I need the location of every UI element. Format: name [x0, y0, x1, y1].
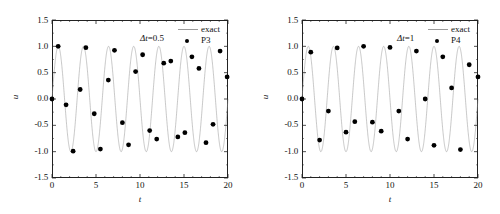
x-tick-label: 0 [50, 180, 55, 190]
x-tick-label: 15 [180, 180, 189, 190]
x-tick-label: 15 [430, 180, 439, 190]
x-tick-label: 5 [344, 180, 349, 190]
figure: 1.5 1.0 0.5 0.0 -0.5 -1.0 -1.5 0 5 10 15… [0, 0, 500, 214]
legend-label: exact [451, 24, 470, 35]
legend-item-series: P3 [178, 35, 220, 46]
legend-label: exact [201, 24, 220, 35]
legend-item-series: P4 [428, 35, 470, 46]
y-tick-label: 1.0 [20, 42, 48, 51]
annotation-delta-symbol: Δt [397, 33, 405, 43]
legend-item-exact: exact [178, 24, 220, 35]
y-tick-label: -1.5 [20, 173, 48, 182]
y-tick-label: 0.0 [20, 94, 48, 103]
y-tick-label: 1.5 [270, 16, 298, 25]
legend-line-swatch-icon [178, 24, 198, 35]
y-axis-label-left: u [10, 90, 20, 104]
x-tick-label: 20 [224, 180, 233, 190]
y-axis-ticks-right: 1.5 1.0 0.5 0.0 -0.5 -1.0 -1.5 [268, 20, 298, 178]
y-tick-label: 0.0 [270, 94, 298, 103]
chart-panel-left: 1.5 1.0 0.5 0.0 -0.5 -1.0 -1.5 0 5 10 15… [0, 0, 250, 214]
legend-item-exact: exact [428, 24, 470, 35]
y-axis-label-right: u [260, 90, 270, 104]
legend-label: P4 [451, 35, 461, 46]
annotation-timestep-right: Δt=1 [397, 33, 414, 43]
legend-line-swatch-icon [428, 24, 448, 35]
x-tick-label: 0 [300, 180, 305, 190]
x-axis-label-left: t [52, 194, 228, 204]
legend-marker-swatch-icon [428, 35, 448, 46]
y-axis-ticks-left: 1.5 1.0 0.5 0.0 -0.5 -1.0 -1.5 [18, 20, 48, 178]
legend-label: P3 [201, 35, 211, 46]
legend-left: exact P3 [178, 24, 220, 46]
x-tick-label: 10 [136, 180, 145, 190]
y-tick-label: 1.0 [270, 42, 298, 51]
y-tick-label: -1.0 [20, 147, 48, 156]
x-tick-label: 10 [386, 180, 395, 190]
y-tick-label: -1.5 [270, 173, 298, 182]
x-tick-label: 5 [94, 180, 99, 190]
annotation-delta-symbol: Δt [140, 33, 148, 43]
legend-right: exact P4 [428, 24, 470, 46]
annotation-value: =0.5 [148, 33, 164, 43]
legend-marker-swatch-icon [178, 35, 198, 46]
y-tick-label: -0.5 [20, 120, 48, 129]
y-tick-label: 0.5 [20, 68, 48, 77]
y-tick-label: 0.5 [270, 68, 298, 77]
x-axis-ticks-left: 0 5 10 15 20 [52, 180, 228, 194]
annotation-value: =1 [405, 33, 415, 43]
x-axis-ticks-right: 0 5 10 15 20 [302, 180, 478, 194]
x-tick-label: 20 [474, 180, 483, 190]
y-tick-label: 1.5 [20, 16, 48, 25]
y-tick-label: -0.5 [270, 120, 298, 129]
chart-panel-right: 1.5 1.0 0.5 0.0 -0.5 -1.0 -1.5 0 5 10 15… [250, 0, 500, 214]
x-axis-label-right: t [302, 194, 478, 204]
y-tick-label: -1.0 [270, 147, 298, 156]
annotation-timestep-left: Δt=0.5 [140, 33, 164, 43]
